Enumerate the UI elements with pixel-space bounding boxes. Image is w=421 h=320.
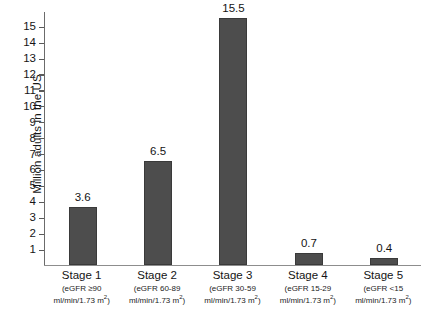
bar-group: 3.6 [45,12,120,265]
y-axis-tick: 2 [39,234,44,235]
bar-group: 15.5 [196,12,271,265]
y-axis-tick-label: 7 [30,147,36,162]
bar-group: 0.4 [347,12,421,265]
y-axis-tick: 9 [39,122,44,123]
y-axis-tick-label: 13 [23,51,36,66]
y-axis-tick: 3 [39,218,44,219]
x-axis-category-title: Stage 4 [270,268,345,283]
y-axis-tick-label: 11 [24,83,36,98]
x-axis-category-title: Stage 5 [346,268,421,283]
x-axis-labels: Stage 1(eGFR ≥90ml/min/1.73 m2)Stage 2(e… [44,268,421,320]
bar-group: 6.5 [120,12,195,265]
bar-value-label: 0.7 [301,237,317,250]
y-axis-tick: 12 [39,74,44,75]
y-axis-tick-label: 10 [23,99,36,114]
bar-group: 0.7 [271,12,346,265]
y-axis-tick: 15 [39,27,44,28]
x-axis-category-range: (eGFR 30-59 [195,283,270,295]
y-axis-tick: 14 [39,43,44,44]
bar[interactable] [69,207,97,264]
y-axis-tick-label: 15 [23,19,36,34]
x-axis-category: Stage 2(eGFR 60-89ml/min/1.73 m2) [119,268,194,306]
y-axis-tick: 6 [39,170,44,171]
y-axis-tick: 8 [39,138,44,139]
x-axis-category-units: ml/min/1.73 m2) [44,295,119,307]
bars-layer: 3.66.515.50.70.4 [45,12,421,265]
y-axis-tick-label: 8 [30,131,36,146]
bar-value-label: 6.5 [150,145,166,158]
y-axis-tick-label: 6 [30,162,36,177]
x-axis-category-units: ml/min/1.73 m2) [195,295,270,307]
y-axis-tick-label: 2 [30,226,36,241]
x-axis-category: Stage 5(eGFR <15ml/min/1.73 m2) [346,268,421,306]
bar-value-label: 3.6 [75,191,91,204]
x-axis-category-title: Stage 1 [44,268,119,283]
x-axis-category: Stage 1(eGFR ≥90ml/min/1.73 m2) [44,268,119,306]
y-axis-tick-label: 12 [23,67,36,82]
bar[interactable] [144,161,172,264]
x-axis-category-units: ml/min/1.73 m2) [270,295,345,307]
y-axis-tick-label: 1 [30,242,36,257]
y-axis-tick: 10 [39,106,44,107]
y-axis-tick: 13 [39,59,44,60]
y-axis-tick-label: 14 [23,35,36,50]
y-axis-tick-label: 9 [30,115,36,130]
x-axis-category-title: Stage 3 [195,268,270,283]
bar-chart: Million adults in the US 151413121110987… [0,0,421,320]
y-axis-tick: 11 [39,90,44,91]
x-axis-category-range: (eGFR 60-89 [119,283,194,295]
x-axis-category-units: ml/min/1.73 m2) [346,295,421,307]
x-axis-category-units: ml/min/1.73 m2) [119,295,194,307]
x-axis-category: Stage 3(eGFR 30-59ml/min/1.73 m2) [195,268,270,306]
x-axis-category-range: (eGFR <15 [346,283,421,295]
y-axis-tick: 1 [39,250,44,251]
x-axis-line [44,265,421,266]
x-axis-category-title: Stage 2 [119,268,194,283]
x-axis-category-range: (eGFR ≥90 [44,283,119,295]
plot-area: 151413121110987654321 3.66.515.50.70.4 [44,12,421,266]
x-axis-category: Stage 4(eGFR 15-29ml/min/1.73 m2) [270,268,345,306]
bar-value-label: 15.5 [222,2,244,15]
y-axis-tick-label: 3 [30,210,36,225]
bar[interactable] [219,18,247,265]
bar[interactable] [370,258,398,264]
x-axis-category-range: (eGFR 15-29 [270,283,345,295]
y-axis-tick: 4 [39,202,44,203]
y-axis-tick: 7 [39,154,44,155]
y-axis-tick: 5 [39,186,44,187]
y-axis-tick-label: 4 [30,194,36,209]
bar[interactable] [295,253,323,264]
y-axis-tick-label: 5 [30,178,36,193]
bar-value-label: 0.4 [376,242,392,255]
